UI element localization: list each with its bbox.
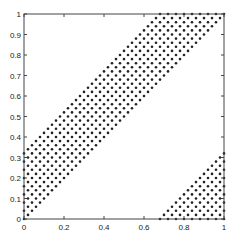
data-point [111, 103, 114, 106]
data-point [203, 205, 206, 208]
data-point [183, 210, 186, 213]
data-point [107, 91, 110, 94]
data-point [159, 37, 162, 40]
data-point [127, 62, 130, 65]
data-point [171, 50, 174, 53]
data-point [43, 132, 46, 135]
data-point [155, 25, 158, 28]
data-point [99, 115, 102, 118]
data-point [87, 111, 90, 114]
data-point [67, 123, 70, 126]
data-point [63, 119, 66, 122]
data-point [119, 78, 122, 81]
data-point [211, 173, 214, 176]
data-point [103, 136, 106, 139]
x-tick-label: 1 [222, 223, 227, 232]
data-point [27, 148, 30, 151]
data-point [195, 181, 198, 184]
data-point [207, 29, 210, 32]
data-point [211, 164, 214, 167]
data-point [107, 66, 110, 69]
data-point [155, 82, 158, 85]
data-point [107, 99, 110, 102]
y-tick-label: 0.1 [10, 195, 22, 204]
y-tick-label: 0.5 [10, 113, 22, 122]
data-point [59, 173, 62, 176]
data-point [147, 25, 150, 28]
data-point [43, 173, 46, 176]
data-point [111, 78, 114, 81]
data-point [115, 99, 118, 102]
data-point [111, 95, 114, 98]
data-point [207, 185, 210, 188]
data-point [27, 205, 30, 208]
data-point [139, 58, 142, 61]
data-point [167, 21, 170, 24]
data-point [79, 136, 82, 139]
data-point [91, 91, 94, 94]
data-point [183, 54, 186, 57]
data-point [127, 70, 130, 73]
data-point [139, 50, 142, 53]
data-point [63, 152, 66, 155]
scatter-chart: 00.20.40.60.81 00.10.20.30.40.50.60.70.8… [0, 0, 237, 243]
data-point [183, 193, 186, 196]
data-point [143, 54, 146, 57]
y-tick-label: 0.8 [10, 51, 22, 60]
data-point [67, 115, 70, 118]
data-point [151, 87, 154, 90]
data-point [187, 25, 190, 28]
data-point [175, 210, 178, 213]
data-point [79, 160, 82, 163]
data-point [171, 205, 174, 208]
data-point [167, 210, 170, 213]
data-point [219, 164, 222, 167]
data-point [67, 140, 70, 143]
data-point [55, 185, 58, 188]
data-point [115, 91, 118, 94]
data-point [99, 123, 102, 126]
data-point [39, 193, 42, 196]
data-point [59, 181, 62, 184]
data-point [71, 144, 74, 147]
data-point [191, 37, 194, 40]
data-point [99, 132, 102, 135]
data-point [51, 181, 54, 184]
data-point [43, 197, 46, 200]
data-point [107, 107, 110, 110]
data-point [215, 201, 218, 204]
data-point [131, 74, 134, 77]
data-point [195, 189, 198, 192]
data-point [27, 173, 30, 176]
data-point [59, 164, 62, 167]
data-point [123, 107, 126, 110]
data-point [183, 37, 186, 40]
data-point [111, 128, 114, 131]
data-point [47, 160, 50, 163]
data-point [115, 123, 118, 126]
data-point [119, 111, 122, 114]
data-point [47, 177, 50, 180]
data-point [203, 25, 206, 28]
data-point [131, 99, 134, 102]
data-point [159, 78, 162, 81]
data-point [99, 140, 102, 143]
data-point [87, 128, 90, 131]
data-point [71, 152, 74, 155]
data-point [55, 144, 58, 147]
data-point [75, 140, 78, 143]
data-point [207, 210, 210, 213]
data-point [71, 128, 74, 131]
data-point [175, 201, 178, 204]
data-point [47, 144, 50, 147]
data-point [195, 197, 198, 200]
data-point [103, 70, 106, 73]
data-point [103, 103, 106, 106]
data-point [95, 144, 98, 147]
data-point [175, 29, 178, 32]
data-point [183, 21, 186, 24]
data-point [111, 62, 114, 65]
data-point [71, 119, 74, 122]
data-point [143, 62, 146, 65]
data-point [207, 177, 210, 180]
